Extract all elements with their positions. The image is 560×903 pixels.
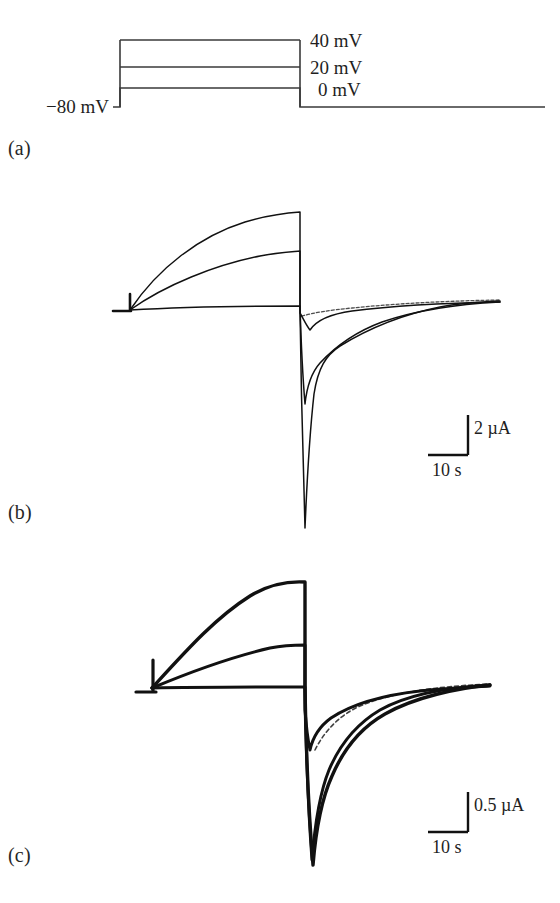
panel-a-plot: −80 mV 40 mV 20 mV 0 mV (0, 0, 560, 175)
scalebar-current-label-c: 0.5 µA (474, 795, 524, 815)
panel-a: −80 mV 40 mV 20 mV 0 mV (a) (0, 0, 560, 175)
step-label-40mv: 40 mV (310, 30, 363, 51)
scalebar-b (428, 415, 468, 455)
trace-c-40mv (152, 582, 490, 865)
panel-label-c: (c) (8, 845, 31, 865)
panel-label-b: (b) (8, 502, 32, 522)
scalebar-time-label-c: 10 s (432, 837, 462, 857)
trace-c-20mv (152, 645, 490, 860)
holding-potential-label: −80 mV (46, 96, 109, 117)
panel-b-plot: 2 µA 10 s (0, 180, 560, 540)
panel-label-a: (a) (8, 138, 31, 158)
panel-c-plot: 0.5 µA 10 s (0, 560, 560, 903)
panel-c: 0.5 µA 10 s (c) (0, 560, 560, 903)
scalebar-time-label-b: 10 s (432, 460, 462, 480)
panel-b: 2 µA 10 s (b) (0, 180, 560, 540)
scalebar-current-label-b: 2 µA (474, 418, 511, 438)
capacitive-transient-b (113, 294, 131, 311)
figure-root: −80 mV 40 mV 20 mV 0 mV (a) 2 µA 10 s (b (0, 0, 560, 903)
trace-c-overlay-dashed (315, 684, 490, 750)
trace-b-20mv (130, 251, 500, 404)
step-label-0mv: 0 mV (318, 79, 361, 100)
scalebar-c (428, 792, 468, 832)
step-label-20mv: 20 mV (310, 57, 363, 78)
